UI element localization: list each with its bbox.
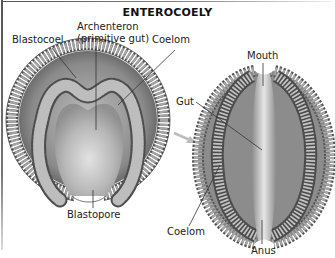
label-blastopore: Blastopore <box>67 209 121 220</box>
diagram-frame: ENTEROCOELY Blastocoel Archenteron (prim… <box>0 0 335 258</box>
label-anus: Anus <box>251 245 276 256</box>
label-archenteron: Archenteron <box>77 21 138 32</box>
right-embryo-coelomate <box>198 64 330 250</box>
label-primitive-gut: (primitive gut) <box>77 33 149 44</box>
label-coelom-left: Coelom <box>152 34 190 45</box>
label-blastocoel: Blastocoel <box>12 34 64 45</box>
label-coelom-right: Coelom <box>167 226 205 237</box>
left-embryo-gastrula <box>6 38 170 206</box>
diagram-title: ENTEROCOELY <box>0 6 335 19</box>
progression-arrow <box>174 133 196 143</box>
label-gut: Gut <box>176 96 194 107</box>
label-mouth: Mouth <box>247 50 278 61</box>
